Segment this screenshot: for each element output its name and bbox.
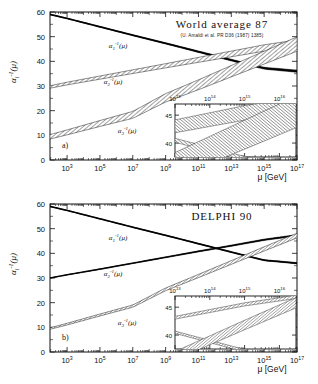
inset-frame [175,296,296,349]
panel-tag: b) [62,333,69,342]
inset-y-tick-label: 45 [165,113,172,119]
curve-label-2: α2-1(μ) [104,77,123,87]
panel-b-svg: 0102030405060103105107109101110131015101… [0,192,318,384]
y-tick-label: 20 [37,299,45,308]
tick-label: 1017 [290,355,304,365]
tick-label: 1015 [239,94,251,102]
tick-label: 1013 [169,94,181,102]
tick-label: 1013 [224,163,238,173]
curve-label-3: α3-1(μ) [118,318,137,328]
panel-a: 0102030405060103105107109101110131015101… [0,0,318,192]
tick-label: 1015 [239,286,251,294]
curve-label-1: α1-1(μ) [109,41,128,51]
y-axis-label: αi-1(μ) [8,61,20,83]
y-tick-label: 60 [37,200,45,209]
inset-y-tick-label: 45 [165,305,172,311]
tick-label: 107 [127,163,138,173]
tick-label: 1013 [224,355,238,365]
y-tick-label: 40 [37,249,45,258]
y-tick-label: 60 [37,8,45,17]
panel-citation: (U. Amaldi et al. PR D36 (1987) 1385) [181,33,264,38]
y-tick-label: 30 [37,82,45,91]
panel-b-inset: 40451013101410151016 [165,286,296,360]
curve-label-2: α2-1(μ) [104,269,123,279]
tick-label: 107 [127,355,138,365]
panel-b-plot: 0102030405060103105107109101110131015101… [0,192,318,384]
tick-label: 1011 [192,355,206,365]
y-tick-label: 30 [37,274,45,283]
tick-label: 109 [160,355,171,365]
tick-label: 1011 [192,163,206,173]
tick-label: 1014 [204,94,216,102]
y-tick-label: 10 [37,131,45,140]
tick-label: 1013 [169,286,181,294]
y-tick-label: 40 [37,57,45,66]
panel-a-plot: 0102030405060103105107109101110131015101… [0,0,318,192]
panel-b: 0102030405060103105107109101110131015101… [0,192,318,384]
tick-label: 103 [61,163,72,173]
tick-label: 1016 [274,94,286,102]
figure-container: 0102030405060103105107109101110131015101… [0,0,318,384]
y-tick-label: 50 [37,225,45,234]
tick-label: 1016 [274,286,286,294]
tick-label: 105 [94,163,105,173]
panel-title: World average 87 [176,18,268,30]
tick-label: 105 [94,355,105,365]
inset-y-tick-label: 40 [165,333,172,339]
y-tick-label: 50 [37,33,45,42]
tick-label: 103 [61,355,72,365]
tick-label: 109 [160,163,171,173]
tick-label: 1014 [204,286,216,294]
y-tick-label: 0 [41,156,45,165]
inset-y-tick-label: 40 [165,141,172,147]
panel-a-svg: 0102030405060103105107109101110131015101… [0,0,318,192]
y-tick-label: 20 [37,107,45,116]
x-axis-label: μ [GeV] [258,364,287,374]
tick-label: 1017 [290,163,304,173]
curve-label-1: α1-1(μ) [109,233,128,243]
y-tick-label: 0 [41,348,45,357]
panel-tag: a) [62,141,69,150]
y-tick-label: 10 [37,323,45,332]
curve-1 [50,206,297,263]
curve-label-3: α3-1(μ) [118,126,137,136]
x-axis-label: μ [GeV] [258,172,287,182]
y-axis-label: αi-1(μ) [8,253,20,275]
panel-title: DELPHI 90 [192,210,253,222]
curve-2 [50,235,297,278]
